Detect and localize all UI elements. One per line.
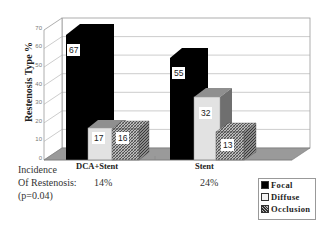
value-label-stent-focal: 55 — [172, 67, 185, 79]
value-label-dca-diffuse: 17 — [92, 132, 105, 144]
incidence-value-stent: 24% — [200, 177, 218, 188]
value-label-dca-occlusion: 16 — [116, 132, 129, 144]
incidence-label-line1: Incidence — [18, 164, 57, 175]
chart-root: Restenosis Type % 0 10 20 30 40 50 60 70… — [0, 0, 328, 228]
legend-label: Occlusion — [271, 204, 311, 214]
focal-swatch-icon — [261, 181, 269, 189]
value-label-dca-focal: 67 — [67, 44, 80, 56]
y-tick: 10 — [28, 136, 42, 142]
y-tick: 60 — [28, 43, 42, 49]
legend-label: Focal — [271, 180, 293, 190]
legend-item-focal: Focal — [259, 179, 315, 191]
y-tick: 70 — [28, 25, 42, 31]
y-tick: 30 — [28, 99, 42, 105]
legend-item-diffuse: Diffuse — [259, 191, 315, 203]
y-tick: 40 — [28, 81, 42, 87]
category-label-dca: DCA+Stent — [76, 161, 118, 171]
incidence-label-line2: Of Restenosis: — [18, 177, 77, 188]
occlusion-swatch-icon — [261, 205, 269, 213]
value-label-stent-diffuse: 32 — [199, 107, 212, 119]
diffuse-swatch-icon — [261, 193, 269, 201]
y-tick: 20 — [28, 118, 42, 124]
category-label-stent: Stent — [195, 161, 214, 171]
p-value: (p=0.04) — [18, 190, 53, 201]
value-label-stent-occlusion: 13 — [221, 139, 234, 151]
y-tick: 50 — [28, 62, 42, 68]
side-wall — [44, 18, 62, 160]
incidence-value-dca: 14% — [94, 177, 112, 188]
legend-item-occlusion: Occlusion — [259, 203, 315, 215]
legend: Focal Diffuse Occlusion — [258, 178, 316, 220]
legend-label: Diffuse — [271, 192, 300, 202]
y-tick: 0 — [28, 155, 42, 161]
